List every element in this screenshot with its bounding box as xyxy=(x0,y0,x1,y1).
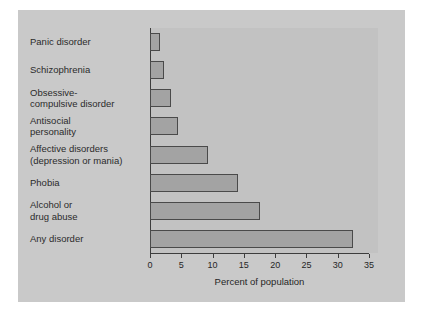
category-label-row: Any disorder xyxy=(18,233,146,245)
category-label: Affective disorders (depression or mania… xyxy=(18,143,146,166)
bar xyxy=(150,61,164,79)
x-tick-label-20: 20 xyxy=(263,260,287,271)
bar xyxy=(150,117,178,135)
bar xyxy=(150,174,238,192)
x-tick-35 xyxy=(369,254,370,258)
x-tick-label-15: 15 xyxy=(232,260,256,271)
category-label: Alcohol or drug abuse xyxy=(18,199,146,222)
category-label-row: Affective disorders (depression or mania… xyxy=(18,143,146,166)
x-tick-5 xyxy=(181,254,182,258)
category-label: Obsessive- compulsive disorder xyxy=(18,87,146,110)
bar xyxy=(150,89,171,107)
category-label: Phobia xyxy=(18,177,146,189)
x-tick-label-30: 30 xyxy=(326,260,350,271)
category-label-row: Panic disorder xyxy=(18,36,146,48)
bar xyxy=(150,230,353,248)
category-label: Schizophrenia xyxy=(18,64,146,76)
x-tick-20 xyxy=(275,254,276,258)
x-tick-0 xyxy=(150,254,151,258)
x-tick-30 xyxy=(338,254,339,258)
bar xyxy=(150,202,260,220)
category-label: Panic disorder xyxy=(18,36,146,48)
category-label-row: Schizophrenia xyxy=(18,64,146,76)
x-axis-line xyxy=(150,253,369,254)
x-tick-15 xyxy=(244,254,245,258)
category-label-row: Antisocial personality xyxy=(18,115,146,138)
x-tick-label-35: 35 xyxy=(357,260,381,271)
x-axis-title: Percent of population xyxy=(150,276,369,287)
x-tick-25 xyxy=(306,254,307,258)
category-label-row: Phobia xyxy=(18,177,146,189)
x-tick-label-25: 25 xyxy=(294,260,318,271)
bar xyxy=(150,33,160,51)
x-tick-10 xyxy=(213,254,214,258)
category-label: Any disorder xyxy=(18,233,146,245)
chart-figure: 05101520253035 Panic disorderSchizophren… xyxy=(18,10,405,302)
x-tick-label-0: 0 xyxy=(138,260,162,271)
bar xyxy=(150,146,208,164)
x-tick-label-5: 5 xyxy=(169,260,193,271)
category-label: Antisocial personality xyxy=(18,115,146,138)
x-tick-label-10: 10 xyxy=(201,260,225,271)
category-label-row: Obsessive- compulsive disorder xyxy=(18,87,146,110)
category-label-row: Alcohol or drug abuse xyxy=(18,199,146,222)
